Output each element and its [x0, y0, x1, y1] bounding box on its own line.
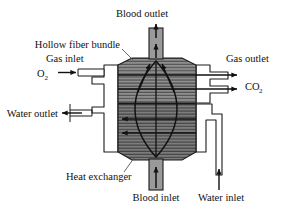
gas-inlet-port: [78, 69, 104, 76]
oxygenator-diagram: Blood outlet Hollow fiber bundle Gas inl…: [0, 0, 285, 207]
label-blood-outlet: Blood outlet: [116, 8, 168, 19]
label-hollow-fiber-bundle: Hollow fiber bundle: [35, 39, 120, 50]
label-blood-inlet: Blood inlet: [133, 192, 180, 203]
diagram-canvas: Blood outlet Hollow fiber bundle Gas inl…: [0, 0, 285, 207]
device-body: [118, 58, 196, 160]
label-water-inlet: Water inlet: [198, 192, 244, 203]
hollow-fiber-bundle-region: [118, 58, 196, 103]
label-gas-outlet: Gas outlet: [226, 53, 269, 64]
label-co2-text: CO: [245, 81, 260, 92]
label-heat-exchanger: Heat exchanger: [66, 171, 132, 182]
label-o2-subscript: 2: [45, 74, 49, 82]
label-co2-subscript: 2: [259, 87, 263, 95]
heat-exchanger-region: [118, 104, 196, 160]
label-gas-inlet: Gas inlet: [46, 53, 84, 64]
label-water-outlet: Water outlet: [7, 108, 58, 119]
